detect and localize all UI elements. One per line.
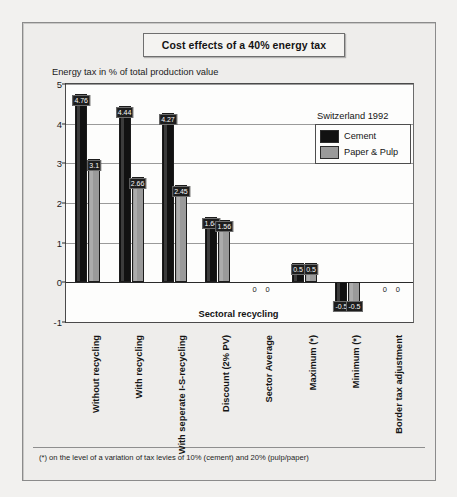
y-axis-tick-label: -1 [54, 317, 62, 328]
x-axis-category-label: Sector Average [264, 335, 274, 403]
y-axis-label: Energy tax in % of total production valu… [52, 67, 218, 77]
x-axis-category-label: Discount (2% PV) [221, 335, 231, 412]
bar-highlight [164, 114, 167, 281]
bar [335, 282, 347, 302]
bar [175, 185, 187, 282]
y-axis-tick-mark [62, 242, 66, 243]
legend-title: Switzerland 1992 [317, 111, 388, 121]
legend-label: Paper & Pulp [344, 147, 398, 157]
bar-value-label: 1.56 [216, 221, 234, 232]
legend-swatch-cement [320, 130, 339, 143]
y-axis-tick-mark [62, 123, 66, 124]
footnote-text: (*) on the level of a variation of tax l… [39, 453, 309, 462]
bar-highlight [177, 186, 180, 281]
legend-label: Cement [344, 131, 376, 141]
bar-value-label: 0 [395, 285, 401, 294]
y-axis-tick-mark [62, 322, 66, 323]
bar-value-label: 0 [265, 285, 271, 294]
zero-axis-line [66, 282, 413, 283]
legend-box: CementPaper & Pulp [315, 124, 411, 164]
bar-value-label: -0.5 [346, 301, 362, 312]
bar [75, 94, 87, 283]
footnote-divider [33, 447, 425, 448]
y-axis-tick-mark [62, 282, 66, 283]
bar [132, 177, 144, 283]
bar-value-label: 3.1 [87, 160, 101, 171]
y-axis-tick-mark [62, 163, 66, 164]
bar-value-label: 0 [252, 285, 258, 294]
bar-value-label: 0.5 [291, 264, 305, 275]
figure-frame: Cost effects of a 40% energy tax Energy … [22, 22, 436, 481]
bar-value-label: 4.44 [116, 107, 134, 118]
bar-value-label: 2.45 [172, 186, 190, 197]
bar-highlight [337, 283, 340, 301]
bar-highlight [350, 283, 353, 301]
x-axis-category-label: Border tax adjustment [394, 335, 404, 434]
chart-title-box: Cost effects of a 40% energy tax [143, 33, 345, 57]
bar-value-label: 0 [382, 285, 388, 294]
x-axis-category-label: Maximum (*) [308, 335, 318, 390]
y-axis-tick-mark [62, 84, 66, 85]
legend-entry: Cement [320, 128, 406, 144]
bar-value-label: 0.5 [304, 264, 318, 275]
x-axis-category-label: Minimum (*) [351, 335, 361, 388]
bar [88, 159, 100, 282]
y-axis-tick-mark [62, 203, 66, 204]
x-axis-category-label: With seperate I-S-recycling [177, 335, 187, 454]
bar [348, 282, 360, 302]
x-axis-category-label: Without recycling [91, 335, 101, 413]
bar-value-label: 4.76 [72, 95, 90, 106]
bar-highlight [121, 107, 124, 281]
bar-highlight [90, 160, 93, 281]
bar-value-label: 2.66 [129, 178, 147, 189]
scanned-page: Cost effects of a 40% energy tax Energy … [0, 0, 457, 497]
x-axis-category-label: With recycling [134, 335, 144, 398]
legend-entry: Paper & Pulp [320, 144, 406, 160]
legend-swatch-paper-pulp [320, 146, 339, 159]
bar-highlight [77, 95, 80, 282]
bar-value-label: 4.27 [159, 114, 177, 125]
bar [119, 106, 131, 282]
chart-title: Cost effects of a 40% energy tax [162, 39, 326, 51]
bar-highlight [134, 178, 137, 282]
gridline [66, 84, 413, 85]
bar [162, 113, 174, 282]
